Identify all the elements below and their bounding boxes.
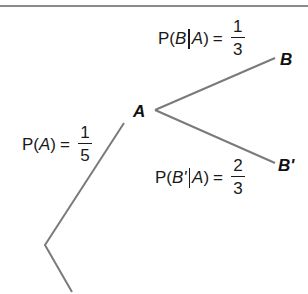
numerator: 2 <box>231 157 244 176</box>
given-bar <box>189 168 191 188</box>
prob-label-a: P( A ) = 1 5 <box>22 124 92 164</box>
prob-event: A <box>39 136 50 153</box>
prob-suffix: ) <box>50 136 56 153</box>
node-a: A <box>133 103 145 120</box>
prob-suffix: ) <box>203 30 209 47</box>
given-bar <box>188 29 190 49</box>
prob-prefix: P( <box>22 136 39 153</box>
denominator: 3 <box>231 38 244 58</box>
equals-sign: = <box>60 136 70 153</box>
branch-a-to-b-prime <box>155 110 275 163</box>
probability-tree-diagram: A B B' P( B A ) = 1 3 P( B' A ) = 2 3 P(… <box>0 0 308 294</box>
prob-prefix: P( <box>155 169 172 186</box>
numerator: 1 <box>78 124 91 143</box>
prob-suffix: ) <box>203 169 209 186</box>
fraction: 2 3 <box>231 157 245 197</box>
branch-a-to-b <box>155 58 275 110</box>
prob-prefix: P( <box>158 30 175 47</box>
prob-event: B' <box>172 169 187 186</box>
prob-label-b-given-a: P( B A ) = 1 3 <box>158 18 245 58</box>
fraction: 1 5 <box>78 124 92 164</box>
prob-label-b-prime-given-a: P( B' A ) = 2 3 <box>155 157 245 197</box>
node-b-prime: B' <box>278 157 294 174</box>
fraction: 1 3 <box>231 18 245 58</box>
equals-sign: = <box>213 169 223 186</box>
denominator: 3 <box>231 177 244 197</box>
equals-sign: = <box>213 30 223 47</box>
prob-given: A <box>192 30 203 47</box>
numerator: 1 <box>231 18 244 37</box>
denominator: 5 <box>78 144 91 164</box>
prob-given: A <box>192 169 203 186</box>
prob-event: B <box>175 30 186 47</box>
node-b: B <box>280 51 292 68</box>
